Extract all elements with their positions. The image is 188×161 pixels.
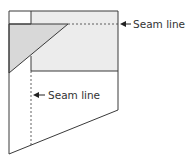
seam-diagram: Seam line Seam line: [0, 0, 188, 161]
top-seam-label: Seam line: [133, 18, 185, 30]
left-arrow-icon: [120, 21, 131, 27]
middle-seam-label: Seam line: [48, 89, 100, 101]
left-arrow-icon: [33, 92, 45, 98]
